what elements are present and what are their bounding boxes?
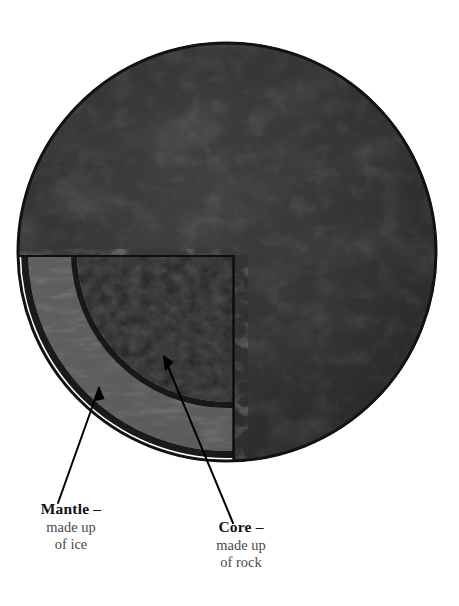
cut-wall-vertical	[233, 255, 248, 466]
mantle-label-line3: of ice	[6, 536, 136, 553]
cut-wall-horizontal	[17, 249, 234, 257]
core-label-line2: made up	[176, 537, 306, 554]
core-label-line3: of rock	[176, 554, 306, 571]
mantle-label-line2: made up	[6, 519, 136, 536]
mantle-label-heading: Mantle –	[6, 500, 136, 519]
cut-wall-vertical-texture	[233, 255, 248, 466]
core-label-block: Core – made up of rock	[176, 518, 306, 571]
planet-cutaway-figure: Mantle – made up of ice Core – made up o…	[0, 0, 459, 606]
mantle-label-block: Mantle – made up of ice	[6, 500, 136, 553]
core-label-heading: Core –	[176, 518, 306, 537]
